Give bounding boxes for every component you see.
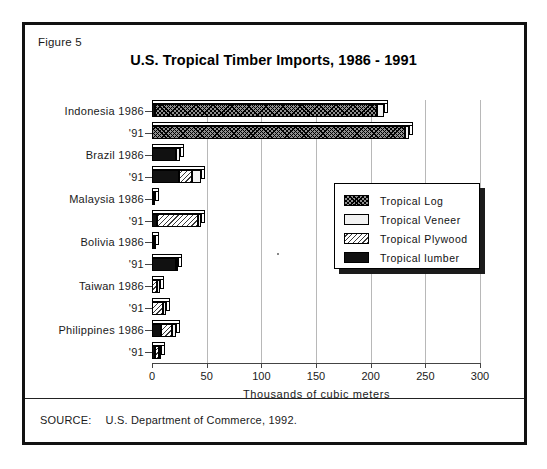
bar-segment — [152, 302, 163, 315]
legend-swatch-icon — [344, 195, 369, 206]
y-axis-tick — [145, 308, 152, 309]
x-axis-tick — [480, 363, 481, 368]
x-axis-tick-label: 100 — [252, 370, 270, 382]
x-axis-tick — [425, 363, 426, 368]
y-axis-tick — [145, 221, 152, 222]
bar-segment — [159, 346, 161, 359]
bar-stack — [152, 280, 160, 293]
gridline — [316, 100, 317, 363]
legend-label: Tropical lumber — [380, 252, 459, 264]
x-axis-tick — [261, 363, 262, 368]
x-axis-tick-label: 250 — [416, 370, 434, 382]
y-axis-category-label: Indonesia 1986 — [65, 105, 144, 117]
x-axis-tick — [316, 363, 317, 368]
bar-segment — [192, 170, 201, 183]
bar-stack — [152, 214, 201, 227]
bar-segment — [163, 302, 166, 315]
bar-segment — [152, 258, 176, 271]
y-axis-category-label: '91 — [129, 215, 144, 227]
bar-segment — [161, 324, 172, 337]
chart-figure-root: Figure 5 U.S. Tropical Timber Imports, 1… — [0, 0, 547, 469]
bar-stack — [152, 324, 176, 337]
y-axis-category-label: Taiwan 1986 — [79, 280, 144, 292]
bar-segment — [405, 126, 409, 139]
x-axis-tick-label: 50 — [201, 370, 213, 382]
bar-stack — [152, 346, 161, 359]
y-axis-category-label: Malaysia 1986 — [69, 193, 144, 205]
legend-label: Tropical Plywood — [380, 233, 468, 245]
y-axis-category-label: '91 — [129, 258, 144, 270]
figure-number-label: Figure 5 — [38, 36, 82, 48]
x-axis-tick — [207, 363, 208, 368]
bar-segment — [152, 148, 176, 161]
y-axis-tick — [145, 199, 152, 200]
y-axis-tick — [145, 242, 152, 243]
bar-segment — [198, 214, 201, 227]
y-axis-category-label: Bolivia 1986 — [80, 236, 144, 248]
y-axis-tick — [145, 133, 152, 134]
bar-stack — [152, 148, 180, 161]
bar-segment — [152, 324, 161, 337]
x-axis-tick-label: 150 — [307, 370, 325, 382]
source-label: SOURCE: — [40, 414, 92, 426]
bar-stack — [152, 126, 409, 139]
scan-artifact-dot — [277, 253, 279, 255]
source-divider — [25, 398, 524, 399]
bar-segment — [179, 170, 192, 183]
legend-item[interactable]: Tropical Veneer — [344, 213, 461, 226]
y-axis-tick — [145, 352, 152, 353]
legend-swatch-icon — [344, 214, 369, 225]
chart-title: U.S. Tropical Timber Imports, 1986 - 199… — [0, 52, 547, 68]
source-note: SOURCE:U.S. Department of Commerce, 1992… — [40, 414, 297, 426]
y-axis-category-label: '91 — [129, 171, 144, 183]
bar-stack — [152, 258, 178, 271]
y-axis-tick — [145, 155, 152, 156]
bar-segment — [176, 148, 180, 161]
x-axis-tick-label: 200 — [361, 370, 379, 382]
legend-item[interactable]: Tropical lumber — [344, 251, 459, 264]
bar-segment — [172, 324, 176, 337]
x-axis-tick — [152, 363, 153, 368]
y-axis-tick — [145, 111, 152, 112]
y-axis-tick — [145, 264, 152, 265]
y-axis-tick — [145, 286, 152, 287]
y-axis-category-label: Brazil 1986 — [86, 149, 144, 161]
gridline — [207, 100, 208, 363]
source-text: U.S. Department of Commerce, 1992. — [106, 414, 297, 426]
bar-stack — [152, 170, 201, 183]
legend-swatch-icon — [344, 252, 369, 263]
bar-segment — [154, 236, 156, 249]
bar-stack — [152, 192, 155, 205]
y-axis-category-labels: Indonesia 1986'91Brazil 1986'91Malaysia … — [34, 100, 144, 363]
bar-stack — [152, 236, 155, 249]
legend-item[interactable]: Tropical Plywood — [344, 232, 468, 245]
y-axis-category-label: '91 — [129, 346, 144, 358]
legend-label: Tropical Log — [380, 195, 443, 207]
bar-segment — [153, 192, 155, 205]
bar-segment — [152, 126, 405, 139]
legend-item[interactable]: Tropical Log — [344, 194, 443, 207]
bar-segment — [176, 258, 178, 271]
bar-stack — [152, 104, 384, 117]
bar-segment — [157, 280, 159, 293]
y-axis-category-label: Philippines 1986 — [58, 324, 144, 336]
legend-label: Tropical Veneer — [380, 214, 461, 226]
bar-stack — [152, 302, 166, 315]
y-axis-category-label: '91 — [129, 127, 144, 139]
x-axis-tick-label: 300 — [471, 370, 489, 382]
chart-legend: Tropical LogTropical VeneerTropical Plyw… — [334, 183, 480, 269]
bar-segment — [377, 104, 384, 117]
y-axis-category-label: '91 — [129, 302, 144, 314]
x-axis-tick — [371, 363, 372, 368]
legend-swatch-icon — [344, 233, 369, 244]
bar-segment — [152, 170, 179, 183]
y-axis-tick — [145, 330, 152, 331]
bar-segment — [155, 104, 377, 117]
gridline — [261, 100, 262, 363]
x-axis-tick-label: 0 — [149, 370, 155, 382]
y-axis-tick — [145, 177, 152, 178]
bar-segment — [157, 214, 197, 227]
